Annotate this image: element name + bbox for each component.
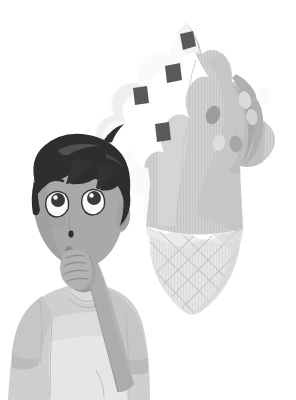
boy-eye-right-highlight	[89, 193, 93, 197]
boy-eye-left	[46, 191, 69, 217]
chocolate-chunk-3	[133, 86, 149, 105]
boy-nose	[68, 231, 73, 238]
sprinkle-6-white	[256, 88, 272, 104]
illustration-canvas: A grayscale illustration of a thoughtful…	[0, 0, 296, 400]
chocolate-chunk-4	[155, 122, 171, 142]
illustration-svg	[0, 0, 296, 400]
boy-eye-right	[82, 189, 105, 215]
boy-eye-left-highlight	[53, 195, 57, 199]
boy-eye-left-iris	[51, 193, 65, 207]
chocolate-chunk-2	[165, 63, 182, 83]
boy-eye-right-iris	[87, 191, 101, 205]
